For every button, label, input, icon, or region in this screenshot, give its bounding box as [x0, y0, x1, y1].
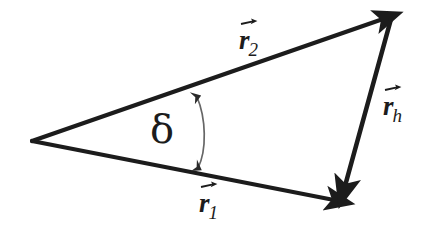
vector-r1-line: [32, 141, 334, 200]
vector-label-rh-subscript: h: [393, 106, 403, 125]
angle-label-delta: δ: [150, 106, 174, 152]
vector-r2-line: [32, 19, 383, 141]
vector-label-r1-name: r1: [199, 190, 219, 217]
vector-label-rh-name: rh: [383, 93, 403, 120]
vector-label-r2: r2: [239, 27, 259, 54]
vector-label-r2-name: r2: [239, 27, 259, 54]
vector-triangle-figure: r2 r1 rh δ: [0, 0, 426, 229]
vector-label-r1-subscript: 1: [209, 203, 219, 222]
vector-label-r2-subscript: 2: [249, 40, 259, 59]
vector-label-r1: r1: [199, 190, 219, 217]
angle-arc-delta: [197, 97, 204, 168]
vector-label-rh: rh: [383, 93, 403, 120]
